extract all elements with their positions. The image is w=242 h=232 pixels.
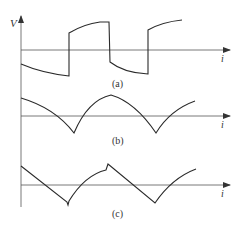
x-axis-label-b: i	[221, 119, 224, 130]
x-axis-label-c: i	[221, 188, 224, 199]
waveform-figure: V i (a) i (b) i (c)	[0, 0, 242, 232]
waveform-b	[21, 95, 195, 133]
panel-a: i (a)	[21, 20, 230, 90]
waveform-diagram: V i (a) i (b) i (c)	[0, 0, 242, 232]
panel-c: i (c)	[21, 164, 230, 220]
waveform-c	[21, 164, 196, 205]
y-axis-label: V	[10, 17, 18, 29]
waveform-a	[21, 20, 182, 76]
caption-b: (b)	[112, 135, 124, 147]
x-axis-label-a: i	[221, 53, 224, 64]
panel-b: i (b)	[21, 95, 230, 147]
caption-c: (c)	[112, 208, 123, 220]
caption-a: (a)	[112, 78, 123, 90]
